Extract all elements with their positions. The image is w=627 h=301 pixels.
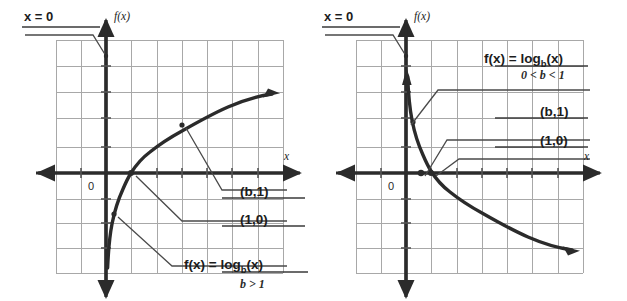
origin-label-left: 0 <box>88 180 94 192</box>
equation-main-right: f(x) = log <box>484 51 541 66</box>
asymptote-label-left: x = 0 <box>24 9 53 24</box>
y-axis-label-left: f(x) <box>114 10 130 23</box>
equation-main-left: f(x) = log <box>184 257 241 272</box>
leader-asymptote-left-tip <box>104 54 108 58</box>
leader-asymptote-right-tip <box>404 54 408 58</box>
point-b1-label-right: (b,1) <box>540 104 569 119</box>
x-axis-label-right: x <box>583 150 590 162</box>
curve-label-marker-left <box>111 211 116 216</box>
condition-label-right: 0 < b < 1 <box>521 68 565 82</box>
point-b1-label-left: (b,1) <box>240 184 269 199</box>
point-10-marker-left <box>128 170 134 176</box>
asymptote-label-right: x = 0 <box>324 9 353 24</box>
point-10-marker-right <box>428 170 434 176</box>
equation-tail-left: (x) <box>246 257 263 272</box>
y-axis-label-right: f(x) <box>414 10 430 23</box>
equation-tail-right: (x) <box>546 51 563 66</box>
equation-label-left: f(x) = logb(x) <box>184 257 263 275</box>
origin-label-right: 0 <box>388 180 394 192</box>
point-b1-marker-left <box>179 122 184 127</box>
point-b1-marker-right <box>418 170 424 176</box>
logarithm-graphs-figure: x = 0 f(x) x 0 (b,1) (1,0) f(x) = logb(x… <box>0 0 627 301</box>
point-10-label-left: (1,0) <box>240 212 268 227</box>
equation-label-right: f(x) = logb(x) <box>484 51 563 69</box>
x-axis-label-left: x <box>283 150 290 162</box>
condition-label-left: b > 1 <box>240 277 265 291</box>
point-10-label-right: (1,0) <box>540 133 568 148</box>
figure-background <box>0 0 627 301</box>
